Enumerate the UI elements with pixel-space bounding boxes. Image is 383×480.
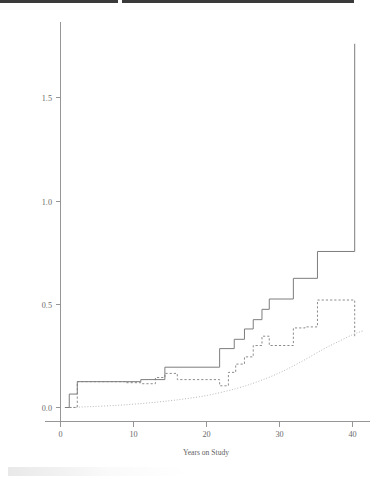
x-axis-title: Years on Study [183, 448, 229, 457]
y-tick-label-2: 1.0 [42, 198, 52, 207]
scan-bottom-smudge [8, 467, 188, 476]
series-smooth-baseline-dotted [68, 331, 364, 408]
figure-root: 0.0 0.5 1.0 1.5 0 10 20 30 40 Years on S… [0, 0, 383, 480]
y-tick-label-1: 0.5 [42, 301, 52, 310]
x-tick-label-30: 30 [275, 430, 283, 439]
y-tick-label-0: 0.0 [42, 404, 52, 413]
x-tick-label-10: 10 [129, 430, 137, 439]
x-axis: 0 10 20 30 40 [45, 422, 370, 440]
series-nelson-aalen-solid [65, 44, 355, 408]
y-tick-label-3: 1.5 [42, 94, 52, 103]
y-axis: 0.0 0.5 1.0 1.5 [42, 22, 61, 421]
series-group [65, 44, 364, 408]
x-tick-label-40: 40 [348, 430, 356, 439]
x-tick-label-20: 20 [202, 430, 210, 439]
series-alternative-estimator-dashed [69, 300, 354, 407]
cumulative-hazard-chart: 0.0 0.5 1.0 1.5 0 10 20 30 40 Years on S… [0, 0, 383, 480]
x-tick-label-0: 0 [58, 430, 62, 439]
